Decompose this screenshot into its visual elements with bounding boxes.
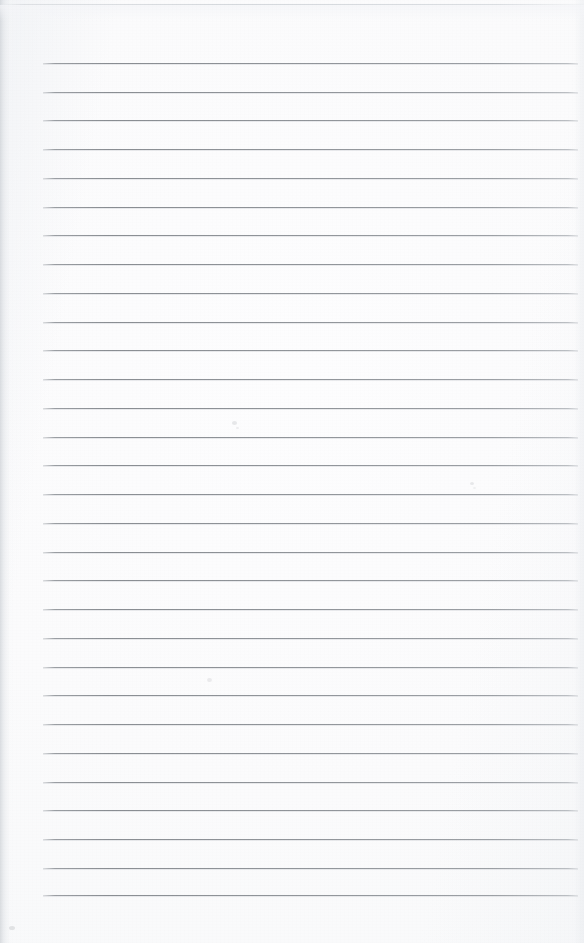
rule-line [43,724,578,725]
rule-line [43,868,578,869]
rule-line [43,753,578,754]
scanned-page [0,0,584,943]
rule-line [43,782,578,783]
rule-line [43,178,578,179]
rule-line [43,120,578,121]
rule-line [43,408,578,409]
rule-line [43,895,578,896]
rule-line [43,695,578,696]
rule-line [43,580,578,581]
rule-line [43,638,578,639]
rule-line [43,839,578,840]
rule-line [43,379,578,380]
rule-line [43,810,578,811]
rule-line [43,609,578,610]
rule-line [43,235,578,236]
rule-line [43,149,578,150]
rule-line [43,63,578,64]
rule-line [43,264,578,265]
rule-line [43,293,578,294]
rule-line [43,523,578,524]
rule-line [43,92,578,93]
rule-line [43,494,578,495]
rule-line [43,207,578,208]
paper-background [0,0,584,943]
rule-line [43,350,578,351]
rule-line [43,667,578,668]
rule-line [43,322,578,323]
rule-line [43,552,578,553]
rule-line [43,465,578,466]
rule-line [43,437,578,438]
page-top-edge-line [0,4,584,5]
